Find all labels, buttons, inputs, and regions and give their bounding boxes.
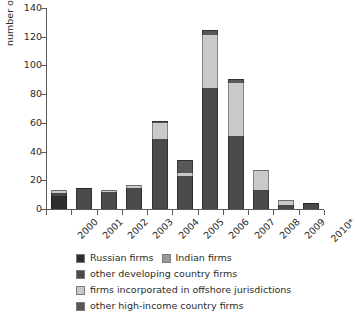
legend-label: firms incorporated in offshore jurisdict… — [90, 284, 291, 296]
bar-2009[interactable] — [278, 200, 294, 209]
legend-swatch-icon — [162, 254, 171, 263]
bar-segment — [253, 190, 269, 209]
y-tick-label: 120 — [24, 30, 42, 43]
legend-entry[interactable]: Russian firms — [76, 252, 154, 264]
bar-2001[interactable] — [76, 188, 92, 209]
bar-2003[interactable] — [126, 185, 142, 209]
y-tick-label: 140 — [24, 1, 42, 14]
chart-legend: Russian firmsIndian firmsother developin… — [0, 250, 335, 314]
legend-row: Russian firmsIndian firms — [0, 250, 335, 266]
bar-segment — [303, 203, 319, 209]
legend-entry[interactable]: Indian firms — [162, 252, 232, 264]
legend-swatch-icon — [76, 286, 85, 295]
bar-segment — [177, 176, 193, 209]
legend-entry[interactable]: other developing country firms — [76, 268, 237, 280]
legend-label: Indian firms — [176, 252, 232, 264]
bar-2007[interactable] — [228, 79, 244, 209]
bar-segment — [202, 88, 218, 209]
y-axis-title-holder: number of new listings — [8, 10, 22, 200]
legend-swatch-icon — [76, 302, 85, 311]
x-axis-line — [46, 209, 324, 210]
x-tick-mark — [324, 210, 325, 215]
x-axis-labels: 2000200120022003200420052006200720082009… — [46, 212, 324, 248]
bar-segment — [76, 188, 92, 209]
bar-segment — [126, 188, 142, 209]
bar-segment — [152, 123, 168, 140]
legend-label: Russian firms — [90, 252, 154, 264]
x-tick-label: 2000 — [75, 216, 100, 241]
x-tick-label: 2002 — [125, 216, 150, 241]
y-tick-label: 20 — [30, 173, 42, 186]
y-tick-label: 0 — [36, 202, 42, 215]
bar-segment — [152, 139, 168, 209]
y-tick-label: 40 — [30, 145, 42, 158]
legend-row: other high-income country firms — [0, 298, 335, 314]
bar-segment — [202, 35, 218, 88]
bar-2002[interactable] — [101, 190, 117, 209]
x-tick-label: 2010* — [329, 216, 357, 244]
bar-2010[interactable] — [303, 203, 319, 209]
plot-area: 020406080100120140 — [46, 8, 324, 210]
bar-segment — [253, 170, 269, 190]
y-axis-line — [46, 8, 47, 210]
legend-entry[interactable]: other high-income country firms — [76, 300, 244, 312]
y-tick-label: 100 — [24, 58, 42, 71]
bar-2008[interactable] — [253, 170, 269, 209]
legend-label: other developing country firms — [90, 268, 237, 280]
x-tick-label: 2004 — [176, 216, 201, 241]
bar-2005[interactable] — [177, 160, 193, 209]
bar-2004[interactable] — [152, 121, 168, 209]
legend-row: firms incorporated in offshore jurisdict… — [0, 282, 335, 298]
legend-swatch-icon — [76, 270, 85, 279]
bar-2006[interactable] — [202, 30, 218, 209]
y-tick-label: 80 — [30, 87, 42, 100]
x-tick-label: 2007 — [252, 216, 277, 241]
bar-segment — [51, 196, 67, 209]
x-tick-label: 2003 — [151, 216, 176, 241]
bar-segment — [228, 136, 244, 209]
bar-2000[interactable] — [51, 190, 67, 209]
x-tick-label: 2009 — [302, 216, 327, 241]
x-tick-label: 2006 — [226, 216, 251, 241]
x-tick-label: 2005 — [201, 216, 226, 241]
bar-segment — [177, 160, 193, 173]
bar-segment — [101, 192, 117, 209]
y-axis-title: number of new listings — [4, 0, 15, 46]
bar-segment — [228, 83, 244, 136]
legend-swatch-icon — [76, 254, 85, 263]
legend-entry[interactable]: firms incorporated in offshore jurisdict… — [76, 284, 291, 296]
bar-segment — [278, 205, 294, 209]
y-tick-label: 60 — [30, 116, 42, 129]
legend-label: other high-income country firms — [90, 300, 244, 312]
x-tick-label: 2001 — [100, 216, 125, 241]
x-tick-label: 2008 — [277, 216, 302, 241]
legend-row: other developing country firms — [0, 266, 335, 282]
